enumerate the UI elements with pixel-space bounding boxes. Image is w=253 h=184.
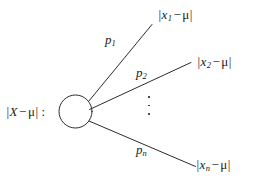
source-label-minus: −	[18, 104, 28, 119]
ellipsis-dot	[148, 105, 150, 107]
edge-line-1	[89, 25, 153, 102]
leaf-label-n-minus: −	[210, 157, 220, 172]
vertical-ellipsis-icon	[146, 96, 152, 120]
source-label-colon: :	[39, 104, 46, 119]
leaf-label-1-bar-close: |	[189, 7, 193, 22]
source-label-variable: X	[10, 104, 18, 119]
edge-label-pn: pn	[136, 143, 147, 158]
edge-label-pn-subscript: n	[143, 148, 147, 158]
edge-label-p2-subscript: 2	[143, 71, 147, 81]
leaf-label-2-bar-close: |	[228, 54, 232, 69]
probability-fan-diagram: |X−μ|: p1 p2 pn |x1−μ| |x2−μ| |xn−μ|	[0, 0, 253, 184]
leaf-label-1-minus: −	[172, 7, 182, 22]
ellipsis-dot	[148, 113, 150, 115]
edge-label-p2: p2	[136, 66, 147, 81]
leaf-label-n: |xn−μ|	[196, 158, 231, 173]
edge-label-p1: p1	[105, 33, 116, 48]
leaf-label-1: |x1−μ|	[158, 8, 193, 23]
source-label: |X−μ|:	[6, 105, 45, 118]
source-node-circle	[59, 95, 92, 128]
edge-label-p1-subscript: 1	[112, 38, 116, 48]
leaf-label-n-bar-close: |	[227, 157, 231, 172]
leaf-label-2: |x2−μ|	[197, 55, 232, 70]
source-label-mu: μ	[28, 104, 35, 119]
source-label-bar-close: |	[35, 104, 39, 119]
ellipsis-dot	[148, 96, 150, 98]
leaf-label-2-minus: −	[211, 54, 221, 69]
